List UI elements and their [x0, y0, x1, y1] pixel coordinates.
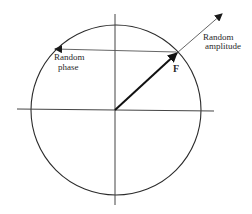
random-amplitude-label-line2: amplitude — [205, 41, 241, 51]
random-phase-label-line2: phase — [58, 62, 79, 72]
f-vector-arrow — [115, 53, 177, 110]
vector-f-label: F — [173, 63, 179, 74]
random-phase-label-line1: Random — [54, 52, 85, 62]
phasor-diagram: Random amplitude Random phase F — [0, 0, 252, 214]
